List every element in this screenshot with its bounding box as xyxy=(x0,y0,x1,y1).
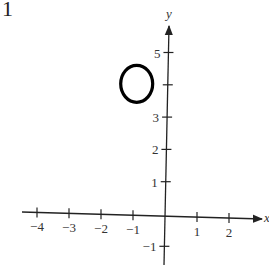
x-tick-label: −3 xyxy=(62,220,76,235)
y-tick-label: 5 xyxy=(154,46,161,61)
y-axis-label: y xyxy=(164,6,172,21)
y-tick-label: −1 xyxy=(143,239,157,254)
x-tick-label: −1 xyxy=(126,222,140,237)
coordinate-plane: xy−4−3−2−112−11235 xyxy=(0,0,269,276)
x-tick-label: −4 xyxy=(30,219,44,234)
tick-labels: xy−4−3−2−112−11235 xyxy=(30,6,269,254)
circle-shape xyxy=(121,65,153,102)
y-axis xyxy=(164,26,169,265)
plotted-shapes xyxy=(121,65,153,102)
x-tick-label: 1 xyxy=(194,224,201,239)
y-tick-label: 1 xyxy=(151,175,158,190)
x-axis-label: x xyxy=(263,210,269,225)
x-tick-label: −2 xyxy=(94,221,108,236)
x-axis xyxy=(22,212,262,219)
y-tick-label: 2 xyxy=(152,142,159,157)
y-tick-label: 3 xyxy=(153,110,160,125)
x-tick-label: 2 xyxy=(226,225,233,240)
